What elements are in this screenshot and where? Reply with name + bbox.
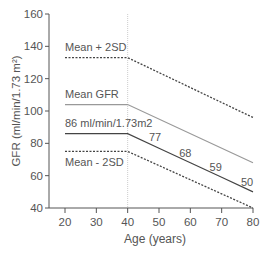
- x-tick-label: 60: [184, 216, 197, 228]
- chart-canvas: 40608010012014016020304050607080 Mean + …: [0, 0, 267, 253]
- annotation-label: Mean - 2SD: [65, 156, 124, 168]
- gfr-age-chart: 40608010012014016020304050607080 Mean + …: [0, 0, 267, 253]
- annotation-label: 68: [179, 147, 191, 159]
- y-tick-label: 160: [24, 8, 43, 20]
- annotation-label: Mean + 2SD: [65, 41, 127, 53]
- x-tick-label: 70: [215, 216, 228, 228]
- annotation-label: Mean GFR: [65, 88, 119, 100]
- y-tick-label: 120: [24, 73, 43, 85]
- y-tick-label: 140: [24, 40, 43, 52]
- x-tick-label: 40: [121, 216, 134, 228]
- annotations: Mean + 2SDMean GFR86 ml/min/1.73m2Mean -…: [65, 41, 253, 188]
- x-axis-label: Age (years): [124, 232, 186, 246]
- annotation-label: 86 ml/min/1.73m2: [65, 117, 152, 129]
- y-tick-label: 100: [24, 105, 43, 117]
- y-tick-label: 60: [30, 170, 43, 182]
- x-tick-label: 50: [153, 216, 166, 228]
- y-tick-label: 40: [30, 202, 43, 214]
- y-tick-label: 80: [30, 137, 43, 149]
- annotation-label: 59: [210, 161, 222, 173]
- x-tick-label: 20: [59, 216, 72, 228]
- x-tick-label: 80: [247, 216, 260, 228]
- x-tick-label: 30: [90, 216, 103, 228]
- annotation-label: 50: [241, 176, 253, 188]
- annotation-label: 77: [149, 131, 161, 143]
- y-axis-label: GFR (ml/min/1.73 m²): [10, 55, 22, 166]
